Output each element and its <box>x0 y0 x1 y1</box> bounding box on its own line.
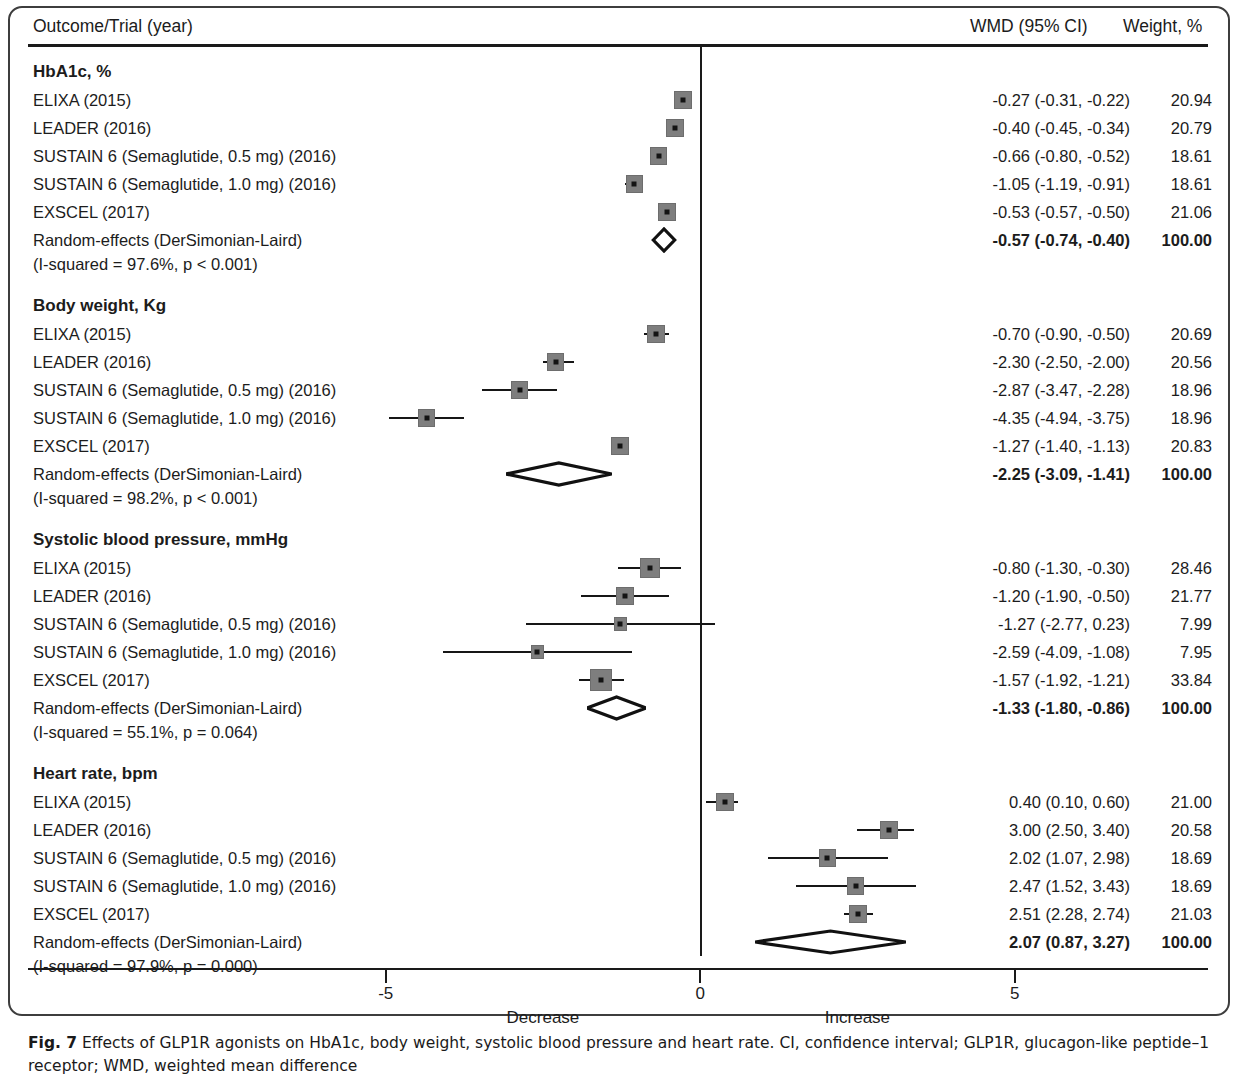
axis-tick-label: 5 <box>1010 984 1019 1004</box>
row-label: (I-squared = 55.1%, p = 0.064) <box>33 718 258 746</box>
forest-row: SUSTAIN 6 (Semaglutide, 1.0 mg) (2016)-2… <box>0 638 1238 666</box>
study-point-marker <box>611 437 629 455</box>
forest-row: SUSTAIN 6 (Semaglutide, 0.5 mg) (2016)-0… <box>0 142 1238 170</box>
study-weight: 20.83 <box>1128 432 1212 460</box>
effect-estimate: -0.40 (-0.45, -0.34) <box>940 114 1130 142</box>
row-label: (I-squared = 97.6%, p < 0.001) <box>33 250 258 278</box>
group-header-row: Systolic blood pressure, mmHg <box>0 526 1238 554</box>
study-point-marker <box>590 669 612 691</box>
heterogeneity-row: (I-squared = 55.1%, p = 0.064) <box>0 718 1238 746</box>
study-weight: 20.56 <box>1128 348 1212 376</box>
row-label: ELIXA (2015) <box>33 554 131 582</box>
study-weight: 20.58 <box>1128 816 1212 844</box>
forest-plot: Outcome/Trial (year) WMD (95% CI) Weight… <box>0 0 1238 1020</box>
study-point-marker <box>640 558 660 578</box>
study-point-marker <box>647 325 665 343</box>
heterogeneity-row: (I-squared = 97.9%, p = 0.000) <box>0 952 1238 980</box>
row-label: LEADER (2016) <box>33 816 151 844</box>
axis-tick <box>385 970 387 983</box>
axis-direction-left: Decrease <box>507 1008 580 1028</box>
forest-row: ELIXA (2015)0.40 (0.10, 0.60)21.00 <box>0 788 1238 816</box>
effect-estimate: -0.66 (-0.80, -0.52) <box>940 142 1130 170</box>
effect-estimate: 2.51 (2.28, 2.74) <box>940 900 1130 928</box>
study-point-marker <box>531 645 545 659</box>
column-header-weight: Weight, % <box>1123 16 1202 37</box>
row-label: SUSTAIN 6 (Semaglutide, 0.5 mg) (2016) <box>33 376 336 404</box>
row-label: SUSTAIN 6 (Semaglutide, 1.0 mg) (2016) <box>33 404 336 432</box>
study-point-marker <box>418 409 435 426</box>
study-point-marker <box>614 617 628 631</box>
study-weight: 21.03 <box>1128 900 1212 928</box>
study-weight: 21.77 <box>1128 582 1212 610</box>
column-header-outcome: Outcome/Trial (year) <box>33 16 193 37</box>
effect-estimate: -0.27 (-0.31, -0.22) <box>940 86 1130 114</box>
study-weight: 20.69 <box>1128 320 1212 348</box>
group-title: Body weight, Kg <box>33 292 166 320</box>
effect-estimate: -0.70 (-0.90, -0.50) <box>940 320 1130 348</box>
figure-number: Fig. 7 <box>28 1034 77 1052</box>
row-label: (I-squared = 97.9%, p = 0.000) <box>33 952 258 980</box>
effect-estimate: -2.87 (-3.47, -2.28) <box>940 376 1130 404</box>
study-point-marker <box>511 381 528 398</box>
study-point-marker <box>650 147 667 164</box>
forest-row: LEADER (2016)-1.20 (-1.90, -0.50)21.77 <box>0 582 1238 610</box>
study-weight: 18.61 <box>1128 142 1212 170</box>
forest-row: EXSCEL (2017)-0.53 (-0.57, -0.50)21.06 <box>0 198 1238 226</box>
axis-tick <box>699 970 701 983</box>
study-weight: 20.94 <box>1128 86 1212 114</box>
effect-estimate: -1.57 (-1.92, -1.21) <box>940 666 1130 694</box>
study-point-marker <box>847 877 864 894</box>
row-label: EXSCEL (2017) <box>33 432 150 460</box>
study-point-marker <box>658 203 676 221</box>
row-label: LEADER (2016) <box>33 582 151 610</box>
forest-row: SUSTAIN 6 (Semaglutide, 1.0 mg) (2016)-1… <box>0 170 1238 198</box>
study-weight: 33.84 <box>1128 666 1212 694</box>
study-weight: 18.96 <box>1128 376 1212 404</box>
forest-row: SUSTAIN 6 (Semaglutide, 0.5 mg) (2016)-2… <box>0 376 1238 404</box>
study-point-marker <box>547 353 565 371</box>
forest-row: LEADER (2016)-2.30 (-2.50, -2.00)20.56 <box>0 348 1238 376</box>
study-point-marker <box>666 119 684 137</box>
effect-estimate: -1.20 (-1.90, -0.50) <box>940 582 1130 610</box>
study-weight: 21.00 <box>1128 788 1212 816</box>
figure-caption: Fig. 7 Effects of GLP1R agonists on HbA1… <box>28 1032 1213 1078</box>
row-label: EXSCEL (2017) <box>33 198 150 226</box>
group-title: Heart rate, bpm <box>33 760 158 788</box>
effect-estimate: -0.80 (-1.30, -0.30) <box>940 554 1130 582</box>
row-label: LEADER (2016) <box>33 348 151 376</box>
row-label: SUSTAIN 6 (Semaglutide, 1.0 mg) (2016) <box>33 872 336 900</box>
study-point-marker <box>716 793 734 811</box>
group-title: Systolic blood pressure, mmHg <box>33 526 288 554</box>
forest-row: SUSTAIN 6 (Semaglutide, 1.0 mg) (2016)-4… <box>0 404 1238 432</box>
study-weight: 18.61 <box>1128 170 1212 198</box>
study-weight: 7.99 <box>1128 610 1212 638</box>
row-label: EXSCEL (2017) <box>33 900 150 928</box>
row-label: EXSCEL (2017) <box>33 666 150 694</box>
row-label: SUSTAIN 6 (Semaglutide, 1.0 mg) (2016) <box>33 638 336 666</box>
effect-estimate: 3.00 (2.50, 3.40) <box>940 816 1130 844</box>
group-title: HbA1c, % <box>33 58 111 86</box>
forest-row: EXSCEL (2017)-1.57 (-1.92, -1.21)33.84 <box>0 666 1238 694</box>
study-weight: 18.96 <box>1128 404 1212 432</box>
row-label: SUSTAIN 6 (Semaglutide, 1.0 mg) (2016) <box>33 170 336 198</box>
group-header-row: HbA1c, % <box>0 58 1238 86</box>
study-weight: 20.79 <box>1128 114 1212 142</box>
effect-estimate: -1.27 (-2.77, 0.23) <box>940 610 1130 638</box>
effect-estimate: -0.53 (-0.57, -0.50) <box>940 198 1130 226</box>
heterogeneity-row: (I-squared = 98.2%, p < 0.001) <box>0 484 1238 512</box>
study-weight: 18.69 <box>1128 844 1212 872</box>
heterogeneity-row: (I-squared = 97.6%, p < 0.001) <box>0 250 1238 278</box>
forest-row: ELIXA (2015)-0.70 (-0.90, -0.50)20.69 <box>0 320 1238 348</box>
effect-estimate: 2.02 (1.07, 2.98) <box>940 844 1130 872</box>
study-weight: 21.06 <box>1128 198 1212 226</box>
row-label: LEADER (2016) <box>33 114 151 142</box>
x-axis-line <box>28 968 1208 970</box>
row-label: SUSTAIN 6 (Semaglutide, 0.5 mg) (2016) <box>33 142 336 170</box>
forest-row: SUSTAIN 6 (Semaglutide, 0.5 mg) (2016)2.… <box>0 844 1238 872</box>
axis-tick-label: 0 <box>695 984 704 1004</box>
group-header-row: Body weight, Kg <box>0 292 1238 320</box>
study-point-marker <box>849 905 867 923</box>
row-label: ELIXA (2015) <box>33 86 131 114</box>
study-point-marker <box>626 175 643 192</box>
study-weight: 28.46 <box>1128 554 1212 582</box>
